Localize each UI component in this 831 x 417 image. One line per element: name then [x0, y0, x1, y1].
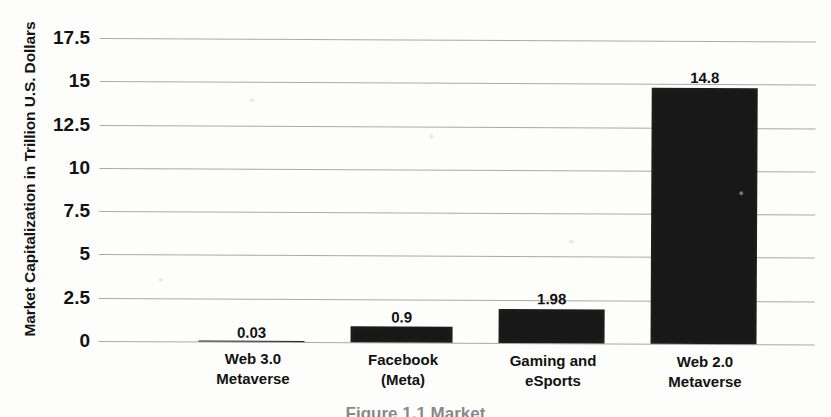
y-tick-label: 15: [18, 70, 90, 92]
y-tick-label: 2.5: [18, 287, 90, 309]
y-axis-tick-labels: 17.5 15 12.5 10 7.5 5 2.5 0: [18, 38, 90, 341]
gridline: [100, 38, 816, 42]
y-tick-label: 7.5: [18, 200, 90, 222]
plot-skew-wrapper: 0.03 0.9 1.98 14.8: [99, 38, 816, 344]
category-label-line2: (Meta): [381, 371, 425, 388]
bar-value-label: 0.03: [237, 324, 266, 341]
y-tick-label: 12.5: [18, 114, 90, 136]
category-label-line2: Metaverse: [216, 370, 289, 387]
x-axis-category-labels: Web 3.0 Metaverse Facebook (Meta) Gaming…: [100, 349, 816, 405]
y-tick-label: 10: [18, 157, 90, 179]
category-label-web-2-0-metaverse: Web 2.0 Metaverse: [668, 352, 741, 392]
bar-web-2-0-metaverse: [651, 87, 758, 344]
y-tick-label: 17.5: [18, 27, 90, 49]
y-tick-label: 0: [18, 330, 90, 352]
category-label-line2: Metaverse: [668, 373, 741, 390]
category-label-line1: Facebook: [368, 351, 438, 368]
category-label-line1: Gaming and: [510, 352, 597, 369]
y-tick-label: 5: [18, 243, 90, 265]
category-label-gaming-and-esports: Gaming and eSports: [510, 351, 597, 391]
figure-caption: Figure 1.1 Market: [0, 404, 831, 417]
category-label-line1: Web 3.0: [225, 350, 281, 367]
plot-area: 0.03 0.9 1.98 14.8: [100, 38, 816, 341]
bar-value-label: 0.9: [391, 308, 412, 325]
category-label-line2: eSports: [525, 372, 581, 389]
bar-value-label: 1.98: [537, 290, 566, 307]
bar-gaming-and-esports: [499, 309, 605, 344]
category-label-line1: Web 2.0: [677, 353, 733, 370]
bar-facebook-meta: [351, 327, 453, 343]
bar-value-label: 14.8: [690, 69, 719, 86]
category-label-facebook-meta: Facebook (Meta): [368, 350, 438, 390]
category-label-web-3-0-metaverse: Web 3.0 Metaverse: [216, 349, 289, 389]
bar-chart-figure: Market Capitalization in Trillion U.S. D…: [0, 0, 831, 417]
